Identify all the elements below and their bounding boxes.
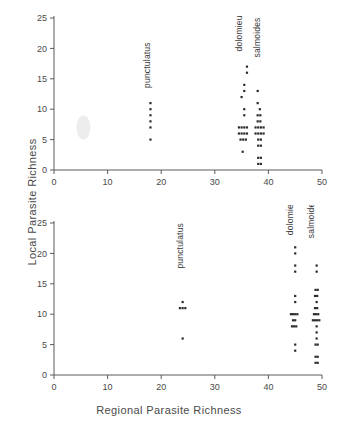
data-point xyxy=(292,313,294,315)
data-point xyxy=(260,157,262,159)
data-point xyxy=(294,313,296,315)
data-point xyxy=(294,295,296,297)
data-point xyxy=(316,331,318,333)
data-point xyxy=(313,313,315,315)
data-point xyxy=(294,252,296,254)
data-point xyxy=(314,362,316,364)
data-point xyxy=(149,139,151,141)
species-label: salmoides xyxy=(306,205,316,238)
data-point xyxy=(257,157,259,159)
y-tick-label: 25 xyxy=(37,13,47,23)
data-point xyxy=(149,114,151,116)
data-point xyxy=(257,132,259,134)
data-point xyxy=(316,307,318,309)
species-label: dolomieu xyxy=(285,205,295,235)
data-point xyxy=(294,246,296,248)
data-point xyxy=(149,126,151,128)
data-point xyxy=(182,301,184,303)
data-point xyxy=(242,151,244,153)
data-point xyxy=(260,139,262,141)
species-label: punctulatus xyxy=(175,223,185,269)
data-point xyxy=(262,132,264,134)
y-tick-label: 15 xyxy=(37,74,47,84)
data-point xyxy=(243,90,245,92)
data-point xyxy=(290,313,292,315)
scan-artifact xyxy=(76,115,90,139)
plot-area-bottom: 010203040500510152025punctulatusdolomieu… xyxy=(0,205,338,405)
data-point xyxy=(238,132,240,134)
data-point xyxy=(316,301,318,303)
data-point xyxy=(316,319,318,321)
data-point xyxy=(316,337,318,339)
scatter-panel-top: 010203040500510152025punctulatusdolomieu… xyxy=(0,0,338,200)
data-point xyxy=(246,132,248,134)
x-tick-label: 50 xyxy=(317,382,327,392)
y-tick-label: 5 xyxy=(42,135,47,145)
series-dolomieu xyxy=(290,246,299,352)
data-point xyxy=(257,126,259,128)
x-tick-label: 0 xyxy=(51,382,56,392)
data-point xyxy=(257,90,259,92)
data-point xyxy=(149,120,151,122)
y-tick-label: 5 xyxy=(42,340,47,350)
data-point xyxy=(314,289,316,291)
data-point xyxy=(316,325,318,327)
species-label: salmoides xyxy=(252,17,262,57)
x-tick-label: 40 xyxy=(263,177,273,187)
data-point xyxy=(294,271,296,273)
x-tick-label: 10 xyxy=(103,382,113,392)
data-point xyxy=(238,126,240,128)
data-point xyxy=(245,139,247,141)
data-point xyxy=(314,295,316,297)
data-point xyxy=(260,145,262,147)
x-tick-label: 30 xyxy=(210,177,220,187)
data-point xyxy=(294,319,296,321)
x-tick-label: 30 xyxy=(210,382,220,392)
x-tick-label: 20 xyxy=(156,177,166,187)
scatter-panel-bottom: 010203040500510152025punctulatusdolomieu… xyxy=(0,205,338,405)
x-tick-label: 0 xyxy=(51,177,56,187)
y-tick-label: 0 xyxy=(42,165,47,175)
data-point xyxy=(246,66,248,68)
data-point xyxy=(292,319,294,321)
data-point xyxy=(239,139,241,141)
y-tick-label: 15 xyxy=(37,279,47,289)
data-point xyxy=(295,325,297,327)
species-label: punctulatus xyxy=(142,42,152,88)
x-tick-label: 20 xyxy=(156,382,166,392)
data-point xyxy=(318,319,320,321)
data-point xyxy=(312,319,314,321)
data-point xyxy=(314,307,316,309)
data-point xyxy=(257,102,259,104)
data-point xyxy=(294,344,296,346)
data-point xyxy=(291,325,293,327)
series-salmoides xyxy=(312,264,321,363)
data-point xyxy=(316,271,318,273)
parasite-richness-figure: 010203040500510152025punctulatusdolomieu… xyxy=(0,0,338,431)
data-point xyxy=(317,344,319,346)
y-axis-label: Local Parasite Richness xyxy=(26,102,38,302)
data-point xyxy=(262,126,264,128)
data-point xyxy=(296,313,298,315)
y-tick-label: 25 xyxy=(37,218,47,228)
data-point xyxy=(149,102,151,104)
data-point xyxy=(182,337,184,339)
data-point xyxy=(182,307,184,309)
data-point xyxy=(259,114,261,116)
data-point xyxy=(257,114,259,116)
data-point xyxy=(257,139,259,141)
data-point xyxy=(184,307,186,309)
data-point xyxy=(243,114,245,116)
series-punctulatus xyxy=(149,102,151,141)
plot-area-top: 010203040500510152025punctulatusdolomieu… xyxy=(0,0,338,200)
x-tick-label: 10 xyxy=(103,177,113,187)
data-point xyxy=(316,264,318,266)
species-label: dolomieu xyxy=(234,15,244,51)
data-point xyxy=(243,132,245,134)
data-point xyxy=(241,96,243,98)
data-point xyxy=(314,319,316,321)
data-point xyxy=(254,132,256,134)
y-tick-label: 10 xyxy=(37,104,47,114)
data-point xyxy=(314,344,316,346)
data-point xyxy=(315,313,317,315)
